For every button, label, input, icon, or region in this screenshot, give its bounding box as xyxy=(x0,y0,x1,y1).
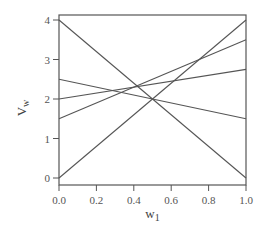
x-tick-label: 0.6 xyxy=(164,194,178,206)
x-axis-title: w1 xyxy=(145,206,159,223)
x-tick-label: 1.0 xyxy=(239,194,253,206)
x-axis: 0.00.20.40.60.81.0 xyxy=(52,185,253,206)
series-lines xyxy=(59,20,246,178)
series-line-4 xyxy=(59,40,246,119)
series-line-3 xyxy=(59,69,246,99)
y-axis-title: Vw xyxy=(14,99,31,116)
chart: 01234 0.00.20.40.60.81.0 Vw w1 xyxy=(0,0,264,236)
y-tick-label: 0 xyxy=(45,172,51,184)
x-tick-label: 0.2 xyxy=(90,194,104,206)
y-axis: 01234 xyxy=(45,14,60,184)
plot-border xyxy=(59,15,246,185)
y-tick-label: 2 xyxy=(45,93,51,105)
y-tick-label: 1 xyxy=(45,133,51,145)
y-tick-label: 4 xyxy=(45,14,51,26)
plot-frame xyxy=(59,15,246,185)
x-tick-label: 0.4 xyxy=(127,194,141,206)
x-tick-label: 0.0 xyxy=(52,194,66,206)
y-tick-label: 3 xyxy=(45,54,51,66)
x-tick-label: 0.8 xyxy=(202,194,216,206)
